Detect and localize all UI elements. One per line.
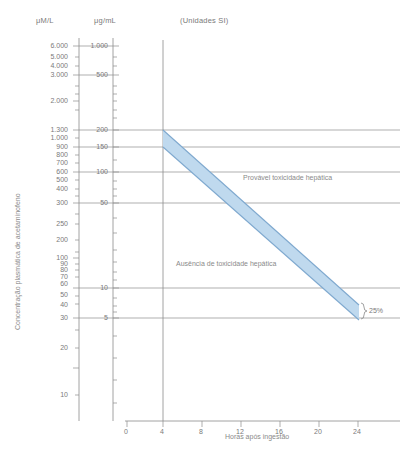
left-tick-5000: 5.000 bbox=[38, 53, 68, 60]
left-tick-70: 70 bbox=[38, 273, 68, 280]
left-tick-60: 60 bbox=[38, 280, 68, 287]
y-axis-title: Concentração plasmática de acetaminofeno bbox=[14, 193, 21, 330]
left-tick-40: 40 bbox=[38, 301, 68, 308]
right-tick-500: 500 bbox=[76, 71, 108, 78]
left-tick-700: 700 bbox=[38, 159, 68, 166]
left-tick-6000: 6.000 bbox=[38, 42, 68, 49]
left-axis-ticks bbox=[73, 46, 79, 395]
left-tick-10: 10 bbox=[38, 391, 68, 398]
right-tick-150: 150 bbox=[76, 143, 108, 150]
left-tick-3000: 3.000 bbox=[38, 71, 68, 78]
axis-lines bbox=[79, 38, 400, 421]
left-tick-250: 250 bbox=[38, 220, 68, 227]
percent-annotation: 25% bbox=[369, 307, 383, 314]
units-si-label: (Unidades SI) bbox=[180, 16, 228, 25]
right-tick-10: 10 bbox=[76, 284, 108, 291]
x-tick-24: 24 bbox=[353, 428, 361, 435]
left-tick-80: 80 bbox=[38, 266, 68, 273]
left-tick-30: 30 bbox=[38, 314, 68, 321]
right-tick-200: 200 bbox=[76, 126, 108, 133]
region-label-no-toxicity: Ausência de toxicidade hepática bbox=[176, 260, 276, 267]
left-tick-900: 900 bbox=[38, 143, 68, 150]
left-tick-300: 300 bbox=[38, 199, 68, 206]
x-tick-12: 12 bbox=[236, 428, 244, 435]
percent-brace-icon bbox=[361, 303, 367, 319]
x-tick-16: 16 bbox=[275, 428, 283, 435]
right-tick-50: 50 bbox=[76, 199, 108, 206]
nomogram-figure: μM/L μg/mL (Unidades SI) Concentração pl… bbox=[0, 0, 410, 451]
left-tick-4000: 4.000 bbox=[38, 62, 68, 69]
x-tick-4: 4 bbox=[160, 428, 164, 435]
right-axis-ticks bbox=[113, 46, 119, 403]
left-tick-20: 20 bbox=[38, 344, 68, 351]
right-tick-5: 5 bbox=[76, 314, 108, 321]
axis-connector-lines bbox=[79, 46, 113, 318]
right-axis-unit-header: μg/mL bbox=[94, 16, 116, 25]
x-tick-8: 8 bbox=[199, 428, 203, 435]
left-tick-500: 500 bbox=[38, 176, 68, 183]
right-tick-100: 100 bbox=[76, 168, 108, 175]
x-tick-20: 20 bbox=[314, 428, 322, 435]
left-tick-200: 200 bbox=[38, 236, 68, 243]
left-tick-50: 50 bbox=[38, 291, 68, 298]
x-axis-ticks bbox=[127, 421, 358, 427]
left-tick-2000: 2.000 bbox=[38, 97, 68, 104]
left-tick-800: 800 bbox=[38, 151, 68, 158]
upper-treatment-line bbox=[163, 130, 359, 305]
lower-treatment-line bbox=[163, 147, 359, 320]
left-tick-1300: 1.300 bbox=[38, 126, 68, 133]
right-tick-1000: 1.000 bbox=[76, 42, 108, 49]
left-axis-unit-header: μM/L bbox=[36, 16, 54, 25]
x-tick-0: 0 bbox=[124, 428, 128, 435]
left-tick-600: 600 bbox=[38, 168, 68, 175]
region-label-probable-toxicity: Provável toxicidade hepática bbox=[243, 174, 332, 181]
treatment-band bbox=[163, 130, 359, 320]
left-tick-1000: 1.000 bbox=[38, 134, 68, 141]
left-tick-400: 400 bbox=[38, 185, 68, 192]
